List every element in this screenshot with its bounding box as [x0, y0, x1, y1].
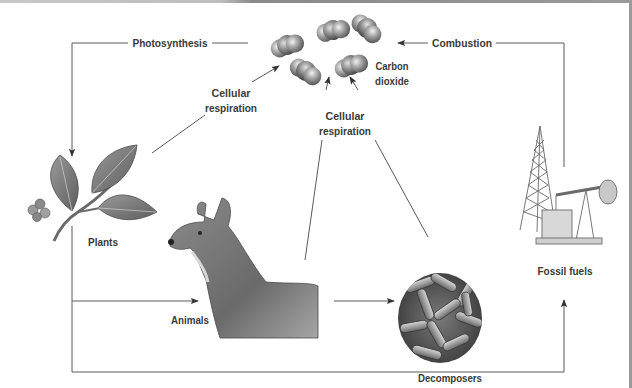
bacteria-icon [398, 272, 484, 363]
combustion-arrow [496, 43, 564, 167]
photosynthesis-arrow-left [72, 43, 128, 156]
label-animals: Animals [171, 314, 209, 326]
label-decomposers: Decomposers [418, 372, 482, 384]
label-plants: Plants [88, 236, 118, 248]
label-fossil-fuels: Fossil fuels [538, 265, 593, 277]
carbon-cycle-diagram: Photosynthesis Combustion Cellular respi… [0, 0, 632, 388]
plant-respiration-arrow [252, 66, 279, 82]
decomposer-respiration-arrow [350, 77, 358, 90]
diagram-canvas: Photosynthesis Combustion Cellular respi… [0, 0, 632, 388]
animal-respiration-line [305, 140, 322, 260]
label-cellular-respiration-plants-line2: respiration [205, 102, 257, 114]
label-combustion: Combustion [432, 37, 492, 49]
animal-respiration-arrow [326, 77, 329, 90]
plant-respiration-line [152, 115, 205, 153]
decomposer-respiration-line [375, 140, 428, 237]
label-cellular-respiration-line2: respiration [319, 125, 371, 137]
label-photosynthesis: Photosynthesis [133, 37, 208, 49]
leafy-branch-icon [28, 145, 157, 241]
label-cellular-respiration-line1: Cellular [326, 110, 365, 122]
co2-molecules-icon [267, 10, 386, 88]
oil-rig-pump-jack-icon [520, 126, 617, 244]
label-cellular-respiration-plants-line1: Cellular [212, 87, 251, 99]
label-carbon-dioxide-line2: dioxide [375, 75, 409, 87]
label-carbon-dioxide-line1: Carbon [376, 60, 409, 72]
